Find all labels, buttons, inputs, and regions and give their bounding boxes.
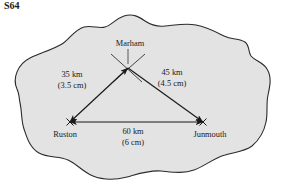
side-label-marham-junmouth-scale: (4.5 cm)	[158, 79, 187, 88]
side-label-ruston-marham-scale: (3.5 cm)	[58, 81, 87, 90]
vertex-label-marham: Marham	[116, 39, 145, 48]
side-label-marham-junmouth-distance: 45 km	[161, 68, 183, 77]
figure-page: S64	[0, 0, 285, 191]
side-label-ruston-junmouth-distance: 60 km	[122, 127, 144, 136]
vertex-label-junmouth: Junmouth	[193, 130, 227, 139]
vertex-label-ruston: Ruston	[53, 130, 78, 139]
side-label-ruston-marham-distance: 35 km	[61, 70, 83, 79]
island-triangle-figure: Marham Ruston Junmouth 35 km (3.5 cm) 45…	[0, 0, 285, 191]
side-label-ruston-junmouth-scale: (6 cm)	[122, 138, 144, 147]
